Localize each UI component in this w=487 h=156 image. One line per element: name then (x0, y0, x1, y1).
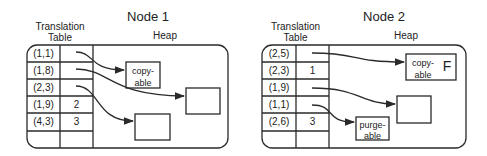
table-key: (4,3) (27, 113, 60, 130)
node-2-title: Node 2 (344, 9, 424, 24)
node-1-heap-label: Heap (140, 30, 190, 41)
heap-object (397, 96, 431, 123)
table-value: 3 (60, 113, 93, 130)
heap-object-label: purge- (356, 120, 389, 130)
table-key: (1,1) (27, 45, 60, 62)
heap-object-label: able (408, 70, 438, 80)
heap-object-label: copy- (408, 58, 438, 68)
table-key: (1,8) (27, 62, 60, 79)
table-value: 2 (60, 96, 93, 113)
node-2-table-label-line2: Table (262, 32, 329, 43)
node-1-table-label-line1: Translation (27, 21, 93, 32)
table-key: (1,9) (27, 96, 60, 113)
table-key: (2,3) (27, 79, 60, 96)
node-1-title: Node 1 (108, 9, 188, 24)
table-key: (1,9) (262, 79, 296, 96)
heap-object-label: able (356, 131, 389, 140)
table-value: 1 (296, 62, 329, 79)
node-2-table-label-line1: Translation (262, 21, 329, 32)
node-1-table-label-line2: Table (27, 32, 93, 43)
table-key: (2,5) (262, 45, 296, 62)
table-key: (2,3) (262, 62, 296, 79)
heap-object (186, 88, 220, 114)
heap-object-label: able (126, 78, 160, 88)
table-key: (1,1) (262, 96, 296, 113)
node-2-heap-label: Heap (381, 30, 431, 41)
heap-object-flag: F (440, 58, 454, 74)
heap-object (135, 114, 170, 140)
heap-object-label: copy- (126, 66, 160, 76)
table-value: 3 (296, 113, 329, 130)
table-key: (2,6) (262, 113, 296, 130)
